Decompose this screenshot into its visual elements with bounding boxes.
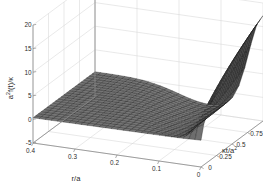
y-tick-label: 0.75 <box>250 130 263 137</box>
x-tick-label: 0.1 <box>152 165 161 172</box>
x-axis-label: r/a <box>72 174 82 183</box>
z-tick-label: 15 <box>24 45 32 52</box>
y-tick-mark <box>201 167 204 169</box>
y-tick-label: 0 <box>208 164 212 171</box>
x-tick-label: 0.3 <box>68 153 77 160</box>
z-tick-label: -5 <box>26 139 32 146</box>
x-tick-mark <box>200 167 201 170</box>
mesh-surface <box>33 16 263 141</box>
surface-plot-canvas: -5051015200.40.30.20.1000.250.50.751r/aκ… <box>0 0 263 186</box>
x-tick-mark <box>74 149 75 152</box>
y-tick-label: 0.5 <box>237 141 246 148</box>
x-tick-mark <box>32 143 33 146</box>
z-tick-label: 0 <box>28 116 32 123</box>
x-tick-mark <box>158 161 159 164</box>
y-axis-label: κt/a2 <box>222 145 237 155</box>
x-tick-label: 0 <box>197 171 201 178</box>
z-tick-label: 5 <box>28 92 32 99</box>
x-tick-mark <box>116 155 117 158</box>
matlab-figure-surface-plot: -5051015200.40.30.20.1000.250.50.751r/aκ… <box>0 0 263 186</box>
z-tick-label: 20 <box>24 21 32 28</box>
x-tick-label: 0.4 <box>26 147 35 154</box>
x-tick-label: 0.2 <box>110 159 119 166</box>
z-axis-label: a2f(t)/κ <box>5 77 15 99</box>
z-tick-label: 10 <box>24 69 32 76</box>
